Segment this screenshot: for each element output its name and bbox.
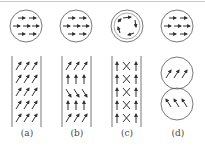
- panel-a-column: [12, 56, 41, 127]
- label-c: (c): [112, 128, 142, 138]
- panel-c-column: [112, 56, 141, 127]
- label-d: (d): [163, 128, 193, 138]
- panel-b-column: [62, 56, 91, 127]
- label-a: (a): [12, 128, 42, 138]
- panel-d-circles: [161, 57, 193, 120]
- domain-diagram: [0, 0, 205, 149]
- label-b: (b): [62, 128, 92, 138]
- panel-b-top-circle: [60, 10, 92, 42]
- panel-d-top-circle: [161, 10, 193, 42]
- panel-a-top-circle: [10, 10, 42, 42]
- panel-c-top-circle: [111, 10, 143, 42]
